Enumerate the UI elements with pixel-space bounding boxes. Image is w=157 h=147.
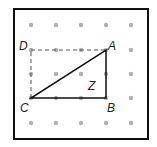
grid-dot: [129, 96, 133, 100]
grid-dot: [104, 121, 108, 125]
grid-dot: [54, 23, 58, 27]
grid-dot: [79, 23, 83, 27]
label-d: D: [19, 39, 28, 53]
geoboard-diagram: A B C D Z: [0, 0, 157, 147]
grid-dot: [54, 72, 58, 76]
grid-dot: [104, 23, 108, 27]
label-b: B: [107, 101, 115, 115]
grid-dot: [129, 48, 133, 52]
label-c: C: [20, 101, 29, 115]
label-a: A: [107, 39, 116, 53]
grid-dots: [29, 23, 133, 125]
grid-dot: [54, 121, 58, 125]
label-z: Z: [87, 79, 96, 93]
grid-dot: [129, 121, 133, 125]
grid-dot: [129, 72, 133, 76]
grid-dot: [29, 121, 33, 125]
grid-dot: [129, 23, 133, 27]
grid-dot: [79, 121, 83, 125]
grid-dot: [29, 23, 33, 27]
grid-dot: [79, 72, 83, 76]
